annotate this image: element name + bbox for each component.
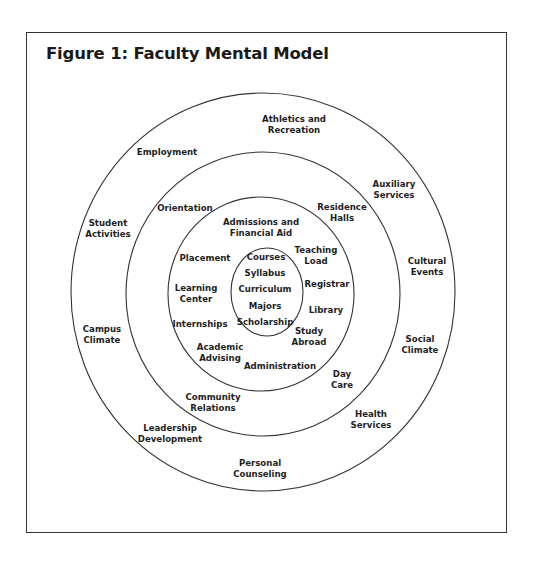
label-line: Health: [351, 409, 392, 420]
label-line: Events: [408, 267, 447, 278]
label-curriculum: Curriculum: [238, 284, 291, 295]
label-social-climate: Social Climate: [402, 334, 439, 356]
label-personal-counseling: Personal Counseling: [233, 458, 287, 480]
label-line: Load: [295, 256, 338, 267]
label-orientation: Orientation: [157, 203, 212, 214]
label-line: Leadership: [138, 423, 202, 434]
label-line: Center: [175, 294, 218, 305]
label-line: Community: [185, 392, 240, 403]
label-campus-climate: Campus Climate: [83, 324, 121, 346]
label-health-services: Health Services: [351, 409, 392, 431]
label-registrar: Registrar: [304, 279, 349, 290]
label-community-relations: Community Relations: [185, 392, 240, 414]
label-student-activities: Student Activities: [85, 218, 130, 240]
label-line: Activities: [85, 229, 130, 240]
label-line: Services: [351, 420, 392, 431]
label-cultural-events: Cultural Events: [408, 256, 447, 278]
label-day-care: Day Care: [331, 369, 353, 391]
label-academic-advising: Academic Advising: [197, 342, 244, 364]
label-line: Day: [331, 369, 353, 380]
label-auxiliary-services: Auxiliary Services: [373, 179, 416, 201]
label-line: Social: [402, 334, 439, 345]
label-line: Services: [373, 190, 416, 201]
label-line: Academic: [197, 342, 244, 353]
label-line: Financial Aid: [223, 228, 299, 239]
label-administration: Administration: [244, 361, 316, 372]
label-syllabus: Syllabus: [245, 268, 286, 279]
label-line: Learning: [175, 283, 218, 294]
label-line: Athletics and: [262, 114, 326, 125]
label-internships: Internships: [172, 319, 227, 330]
label-line: Care: [331, 380, 353, 391]
label-line: Climate: [402, 345, 439, 356]
label-line: Personal: [233, 458, 287, 469]
label-line: Recreation: [262, 125, 326, 136]
label-study-abroad: Study Abroad: [292, 326, 327, 348]
label-scholarship: Scholarship: [237, 317, 294, 328]
label-employment: Employment: [137, 147, 197, 158]
label-line: Auxiliary: [373, 179, 416, 190]
label-line: Study: [292, 326, 327, 337]
label-line: Counseling: [233, 469, 287, 480]
label-placement: Placement: [180, 253, 231, 264]
label-line: Climate: [83, 335, 121, 346]
label-learning-center: Learning Center: [175, 283, 218, 305]
label-admissions-financial-aid: Admissions and Financial Aid: [223, 217, 299, 239]
label-line: Abroad: [292, 337, 327, 348]
label-line: Cultural: [408, 256, 447, 267]
label-line: Relations: [185, 403, 240, 414]
label-line: Student: [85, 218, 130, 229]
label-teaching-load: Teaching Load: [295, 245, 338, 267]
label-line: Admissions and: [223, 217, 299, 228]
label-library: Library: [309, 305, 343, 316]
label-courses: Courses: [247, 252, 286, 263]
label-line: Halls: [317, 213, 367, 224]
label-line: Advising: [197, 353, 244, 364]
label-residence-halls: Residence Halls: [317, 202, 367, 224]
label-line: Teaching: [295, 245, 338, 256]
label-leadership-development: Leadership Development: [138, 423, 202, 445]
label-line: Residence: [317, 202, 367, 213]
label-line: Development: [138, 434, 202, 445]
label-athletics-recreation: Athletics and Recreation: [262, 114, 326, 136]
label-majors: Majors: [249, 301, 282, 312]
label-line: Campus: [83, 324, 121, 335]
